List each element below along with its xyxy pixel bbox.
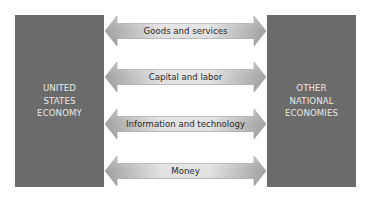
flow-arrow-information-and-technology: Information and technology: [105, 109, 266, 139]
flow-arrows: Goods and services Capital and labor Inf…: [0, 0, 370, 200]
flow-label-information-and-technology: Information and technology: [126, 119, 245, 129]
flow-arrow-goods-and-services: Goods and services: [105, 16, 266, 46]
flow-label-money: Money: [171, 166, 200, 176]
flow-arrow-capital-and-labor: Capital and labor: [105, 62, 266, 92]
flow-arrow-money: Money: [105, 156, 266, 186]
flow-label-goods-and-services: Goods and services: [144, 26, 229, 36]
flow-label-capital-and-labor: Capital and labor: [149, 72, 223, 82]
